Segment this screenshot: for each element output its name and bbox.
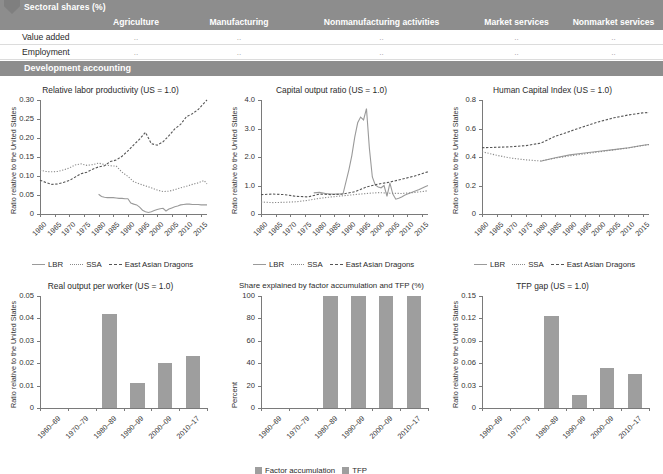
table-cell: .. bbox=[564, 33, 663, 42]
y-tick-label: 40 bbox=[221, 358, 255, 367]
bar bbox=[323, 296, 337, 408]
y-tick-label: 0.06 bbox=[442, 358, 476, 367]
legend-item-east-asian-dragons: East Asian Dragons bbox=[109, 260, 193, 269]
legend-item-tfp: TFP bbox=[342, 466, 367, 474]
y-tick-mark bbox=[37, 341, 40, 342]
x-tick-mark bbox=[290, 214, 291, 217]
x-tick-mark bbox=[172, 214, 173, 217]
x-tick-mark bbox=[40, 408, 41, 411]
x-tick-mark bbox=[510, 408, 511, 411]
y-tick-mark bbox=[479, 386, 482, 387]
x-tick-mark bbox=[599, 214, 600, 217]
sectoral-shares-table: Sectoral shares (%) Agriculture Manufact… bbox=[0, 0, 663, 76]
bar bbox=[407, 296, 421, 408]
section-header-development-accounting: Development accounting bbox=[0, 61, 663, 76]
table-cell: .. bbox=[88, 33, 184, 42]
x-tick-mark bbox=[289, 408, 290, 411]
legend-item-ssa: SSA bbox=[70, 260, 102, 269]
series-line-east-asian-dragons bbox=[40, 100, 207, 184]
series-line-ssa bbox=[40, 163, 207, 192]
x-tick-mark bbox=[378, 214, 379, 217]
chart-legend: LBRSSAEast Asian Dragons bbox=[32, 260, 193, 269]
y-tick-label: 0.12 bbox=[442, 313, 476, 322]
bar bbox=[158, 363, 172, 408]
chart-human-capital-index: Human Capital Index (US = 1.0)Ratio rela… bbox=[442, 82, 663, 278]
legend-item-lbr: LBR bbox=[474, 260, 505, 269]
figure-page: Sectoral shares (%) Agriculture Manufact… bbox=[0, 0, 663, 474]
legend-label-ssa: SSA bbox=[86, 260, 102, 269]
table-row: Value added .. .. .. .. .. bbox=[0, 30, 663, 45]
x-tick-mark bbox=[55, 214, 56, 217]
legend-label-ssa: SSA bbox=[307, 260, 323, 269]
series-line-lbr bbox=[99, 194, 207, 212]
y-tick-mark bbox=[37, 296, 40, 297]
x-tick-mark bbox=[482, 214, 483, 217]
y-tick-label: 0.02 bbox=[0, 358, 34, 367]
chart-tfp-gap: TFP gap (US = 1.0)Ratio relative to the … bbox=[442, 278, 663, 474]
table-cell: .. bbox=[294, 48, 469, 57]
x-tick-mark bbox=[345, 408, 346, 411]
x-tick-mark bbox=[96, 408, 97, 411]
x-tick-mark bbox=[643, 214, 644, 217]
x-tick-mark bbox=[69, 214, 70, 217]
x-tick-mark bbox=[570, 214, 571, 217]
x-tick-mark bbox=[157, 214, 158, 217]
legend-line-ssa bbox=[70, 264, 83, 265]
x-tick-mark bbox=[372, 408, 373, 411]
table-cell: .. bbox=[469, 48, 564, 57]
y-tick-label: 0 bbox=[221, 403, 255, 412]
x-tick-mark bbox=[497, 214, 498, 217]
table-cell: .. bbox=[88, 48, 184, 57]
x-tick-mark bbox=[422, 214, 423, 217]
x-tick-mark bbox=[179, 408, 180, 411]
bar bbox=[130, 383, 144, 408]
bar bbox=[572, 395, 586, 408]
x-tick-mark bbox=[334, 214, 335, 217]
chart-legend: Factor accumulationTFP bbox=[255, 466, 367, 474]
section-header-development-accounting-label: Development accounting bbox=[24, 63, 131, 73]
legend-line-lbr bbox=[32, 264, 45, 265]
y-tick-label: 0.09 bbox=[442, 336, 476, 345]
chart-legend: LBRSSAEast Asian Dragons bbox=[253, 260, 414, 269]
y-tick-label: 0 bbox=[442, 403, 476, 412]
x-tick-mark bbox=[585, 214, 586, 217]
legend-label-ssa: SSA bbox=[528, 260, 544, 269]
x-tick-mark bbox=[555, 214, 556, 217]
x-tick-mark bbox=[621, 408, 622, 411]
x-tick-mark bbox=[320, 214, 321, 217]
x-tick-mark bbox=[593, 408, 594, 411]
y-tick-mark bbox=[479, 318, 482, 319]
x-tick-mark bbox=[317, 408, 318, 411]
y-tick-mark bbox=[37, 363, 40, 364]
x-tick-mark bbox=[393, 214, 394, 217]
x-tick-mark bbox=[207, 408, 208, 411]
y-tick-label: 0.15 bbox=[442, 291, 476, 300]
x-tick-mark bbox=[305, 214, 306, 217]
chart-relative-labor-productivity: Relative labor productivity (US = 1.0)Ra… bbox=[0, 82, 221, 278]
legend-item-ssa: SSA bbox=[512, 260, 544, 269]
x-tick-mark bbox=[113, 214, 114, 217]
chart-legend: LBRSSAEast Asian Dragons bbox=[474, 260, 635, 269]
legend-line-east-asian-dragons bbox=[330, 264, 343, 265]
y-tick-label: 60 bbox=[221, 336, 255, 345]
x-tick-mark bbox=[261, 408, 262, 411]
x-tick-mark bbox=[511, 214, 512, 217]
notch-marker-icon bbox=[4, 0, 20, 14]
x-tick-mark bbox=[201, 214, 202, 217]
table-cell: .. bbox=[294, 33, 469, 42]
y-tick-mark bbox=[258, 363, 261, 364]
legend-label-east-asian-dragons: East Asian Dragons bbox=[125, 260, 193, 269]
table-header-nonmanufacturing-activities: Nonmanufacturing activities bbox=[294, 17, 469, 27]
table-row-label-value-added: Value added bbox=[0, 32, 88, 42]
y-tick-label: 0.03 bbox=[442, 381, 476, 390]
y-tick-label: 0.05 bbox=[0, 291, 34, 300]
chart-capital-output-ratio: Capital output ratio (US = 1.0)Ratio rel… bbox=[221, 82, 442, 278]
y-tick-label: 0.04 bbox=[0, 313, 34, 322]
legend-item-lbr: LBR bbox=[253, 260, 284, 269]
table-header-agriculture: Agriculture bbox=[88, 17, 184, 27]
legend-label-tfp: TFP bbox=[352, 466, 367, 474]
x-tick-mark bbox=[349, 214, 350, 217]
table-header-manufacturing: Manufacturing bbox=[184, 17, 294, 27]
legend-line-lbr bbox=[474, 264, 487, 265]
legend-item-east-asian-dragons: East Asian Dragons bbox=[551, 260, 635, 269]
